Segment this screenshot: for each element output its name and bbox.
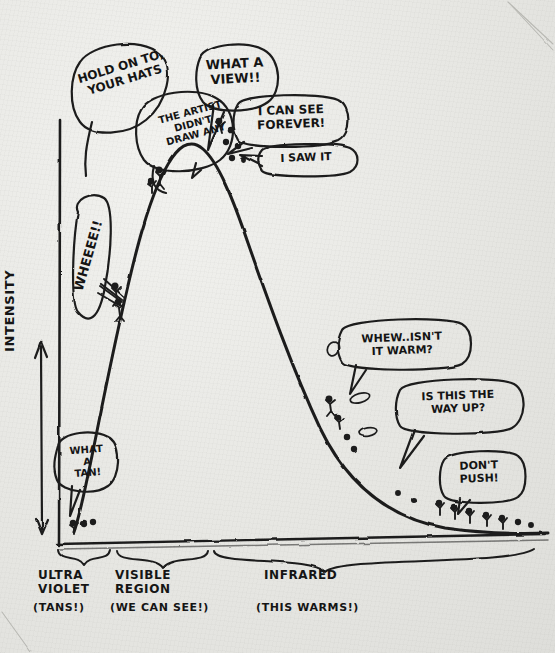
brace-visible [117, 551, 208, 568]
stick-figure [326, 397, 335, 417]
region-braces [59, 549, 534, 572]
bubble-hold-on-hats [72, 44, 168, 176]
brace-uv [59, 550, 110, 565]
stick-figure [241, 158, 245, 162]
stick-figure [352, 447, 356, 451]
stick-figure [230, 156, 234, 160]
stick-figure [483, 513, 491, 526]
chart-drawing [0, 0, 555, 653]
intensity-curve [74, 144, 548, 533]
bubble-wheeee [73, 195, 122, 318]
brace-infrared [214, 549, 534, 572]
bubble-isnt-it-warm [338, 319, 471, 394]
stick-figure [499, 516, 507, 529]
y-axis [59, 120, 60, 545]
stick-figure [529, 523, 533, 527]
stick-figure [436, 501, 444, 515]
stick-figure [396, 491, 400, 495]
bubble-what-a-tan [54, 432, 118, 516]
speech-bubble-outlines [54, 44, 525, 516]
stick-figure [345, 435, 350, 440]
y-axis-arrow [35, 342, 48, 534]
hat-icon [349, 391, 371, 405]
stick-figure [412, 498, 416, 502]
x-axis [57, 534, 548, 549]
stick-figure [516, 520, 520, 524]
bubble-i-saw-it [240, 144, 358, 176]
stick-figure [82, 522, 86, 526]
stick-figure [466, 509, 474, 523]
hat-icon [358, 426, 377, 437]
bubble-way-up [396, 379, 524, 468]
cartoon-figure: HOLD ON TO, YOUR HATS THE ARTIST DIDN'T … [0, 0, 555, 653]
stick-figure [224, 140, 228, 144]
stick-figure [91, 520, 95, 524]
stick-figure [335, 415, 344, 429]
